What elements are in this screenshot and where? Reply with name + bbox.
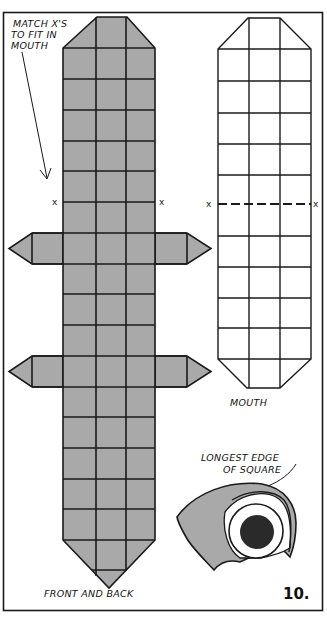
front-back-label: FRONT AND BACK bbox=[44, 588, 134, 599]
front-back-pattern bbox=[9, 17, 211, 588]
left-tab-upper bbox=[9, 233, 63, 264]
mouth-label: MOUTH bbox=[230, 397, 267, 408]
pattern-figure: x x MATCH X'S TO FIT IN MOUTH x x MOUTH bbox=[0, 0, 327, 618]
pupil bbox=[240, 515, 274, 549]
figure-number: 10. bbox=[283, 585, 310, 603]
front-back-body bbox=[63, 17, 155, 588]
match-label-line2: TO FIT IN bbox=[11, 29, 57, 40]
right-tab-upper bbox=[155, 233, 211, 264]
longest-edge-line2: OF SQUARE bbox=[223, 464, 281, 475]
right-tab-lower bbox=[155, 356, 211, 387]
mouth-x-mark-left: x bbox=[206, 199, 212, 209]
left-tab-lower bbox=[9, 356, 63, 387]
match-label-line1: MATCH X'S bbox=[13, 18, 67, 29]
x-mark-left: x bbox=[52, 197, 58, 207]
longest-edge-line1: LONGEST EDGE bbox=[201, 452, 279, 463]
mouth-body bbox=[218, 18, 311, 388]
eye-diagram bbox=[177, 464, 296, 570]
arrow-icon bbox=[22, 52, 51, 179]
match-label-line3: MOUTH bbox=[11, 40, 48, 51]
mouth-pattern bbox=[218, 18, 311, 388]
mouth-x-mark-right: x bbox=[313, 199, 319, 209]
x-mark-right: x bbox=[159, 197, 165, 207]
